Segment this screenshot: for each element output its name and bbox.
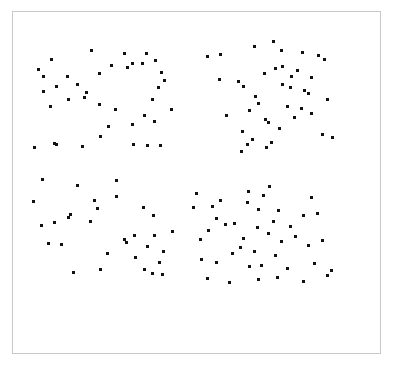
data-point xyxy=(42,90,45,93)
data-point xyxy=(115,179,118,182)
data-point xyxy=(69,213,72,216)
data-point xyxy=(132,143,135,146)
data-point xyxy=(321,133,324,136)
data-point xyxy=(206,55,209,58)
data-point xyxy=(262,194,265,197)
data-point xyxy=(225,114,228,117)
data-point xyxy=(195,192,198,195)
plot-frame xyxy=(12,11,381,354)
data-point xyxy=(310,112,313,115)
data-point xyxy=(90,49,93,52)
data-point xyxy=(326,98,329,101)
scatter-figure xyxy=(0,0,393,366)
data-point xyxy=(199,238,202,241)
data-point xyxy=(219,53,222,56)
data-point xyxy=(146,144,149,147)
data-point xyxy=(66,75,69,78)
data-point xyxy=(50,58,53,61)
data-point xyxy=(317,54,320,57)
data-point xyxy=(310,76,313,79)
data-point xyxy=(260,264,263,267)
data-point xyxy=(143,268,146,271)
data-point xyxy=(240,150,243,153)
data-point xyxy=(98,72,101,75)
data-point xyxy=(159,144,162,147)
data-point xyxy=(247,190,250,193)
data-point xyxy=(280,240,283,243)
data-point xyxy=(270,141,273,144)
data-point xyxy=(253,250,256,253)
data-point xyxy=(233,222,236,225)
data-point xyxy=(293,116,296,119)
data-point xyxy=(81,145,84,148)
data-point xyxy=(55,85,58,88)
data-point xyxy=(257,278,260,281)
data-point xyxy=(289,86,292,89)
data-point xyxy=(281,65,284,68)
data-point xyxy=(153,120,156,123)
data-point xyxy=(67,216,70,219)
data-point xyxy=(253,45,256,48)
data-point xyxy=(330,269,333,272)
data-point xyxy=(326,274,329,277)
data-point xyxy=(302,280,305,283)
data-point xyxy=(151,272,154,275)
data-point xyxy=(200,258,203,261)
data-point xyxy=(206,277,209,280)
data-point xyxy=(281,83,284,86)
data-point xyxy=(85,91,88,94)
data-point xyxy=(272,220,275,223)
data-point xyxy=(146,245,149,248)
data-point xyxy=(134,256,137,259)
data-point xyxy=(272,40,275,43)
data-point xyxy=(125,241,128,244)
data-point xyxy=(257,102,260,105)
data-point xyxy=(110,64,113,67)
data-point xyxy=(246,201,249,204)
data-point xyxy=(294,235,297,238)
data-point xyxy=(207,229,210,232)
data-point xyxy=(126,66,129,69)
data-point xyxy=(93,199,96,202)
data-point xyxy=(60,243,63,246)
data-point xyxy=(316,212,319,215)
data-point xyxy=(153,234,156,237)
data-point xyxy=(254,95,257,98)
data-point xyxy=(218,78,221,81)
data-point xyxy=(246,143,249,146)
data-point xyxy=(268,185,271,188)
data-point xyxy=(241,130,244,133)
data-point xyxy=(248,109,251,112)
data-point xyxy=(53,142,56,145)
data-point xyxy=(133,234,136,237)
data-point xyxy=(267,232,270,235)
data-point xyxy=(248,265,251,268)
data-point xyxy=(145,52,148,55)
data-point xyxy=(141,62,144,65)
data-point xyxy=(307,244,310,247)
data-point xyxy=(40,224,43,227)
data-point xyxy=(157,86,160,89)
data-point xyxy=(321,239,324,242)
data-point xyxy=(131,62,134,65)
data-point xyxy=(99,268,102,271)
data-point xyxy=(303,89,306,92)
data-point xyxy=(114,108,117,111)
data-point xyxy=(142,206,145,209)
data-point xyxy=(143,114,146,117)
data-point xyxy=(41,178,44,181)
data-point xyxy=(277,209,280,212)
data-point xyxy=(237,80,240,83)
data-point xyxy=(163,79,166,82)
data-point xyxy=(296,69,299,72)
data-point xyxy=(219,199,222,202)
data-point xyxy=(307,92,310,95)
data-point xyxy=(76,184,79,187)
data-point xyxy=(32,200,35,203)
data-point xyxy=(107,125,110,128)
data-point xyxy=(106,252,109,255)
data-point xyxy=(42,75,45,78)
data-point xyxy=(323,58,326,61)
data-point xyxy=(231,252,234,255)
data-point xyxy=(89,220,92,223)
